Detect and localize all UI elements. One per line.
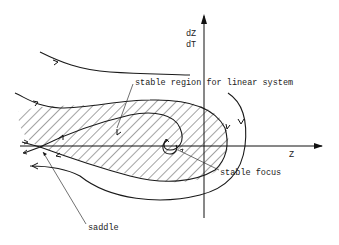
leader-saddle xyxy=(43,152,86,224)
saddle-label: saddle xyxy=(88,223,119,233)
stable-region xyxy=(18,100,228,182)
stable-focus-label: stable focus xyxy=(220,168,281,178)
stable-region-label: stable region for linear system xyxy=(135,78,293,88)
trajectory-top xyxy=(40,52,190,75)
y-axis-label-denominator: dT xyxy=(186,40,196,50)
dzdt-axis-arrow-icon xyxy=(201,14,207,24)
phase-portrait-diagram: dZ dT Z stable region for linear system … xyxy=(0,0,339,245)
x-axis-label: Z xyxy=(289,150,294,160)
y-axis-label-numerator: dZ xyxy=(186,29,196,39)
z-axis-arrow-icon xyxy=(314,143,323,149)
